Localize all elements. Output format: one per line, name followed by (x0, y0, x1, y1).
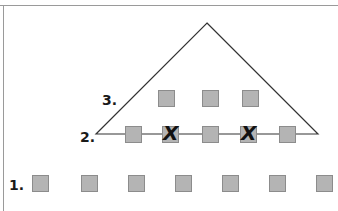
square (316, 175, 333, 192)
square (158, 90, 175, 107)
square (279, 126, 296, 143)
square (128, 175, 145, 192)
row-label-1: 1. (9, 178, 24, 192)
square (202, 90, 219, 107)
square (269, 175, 286, 192)
row-label-3: 3. (102, 93, 117, 107)
cross-out-icon: X (163, 123, 178, 143)
square (175, 175, 192, 192)
square (32, 175, 49, 192)
square (202, 126, 219, 143)
square (222, 175, 239, 192)
square (242, 90, 259, 107)
triangle-outline (96, 23, 318, 134)
cross-out-icon: X (241, 123, 256, 143)
square (125, 126, 142, 143)
row-label-2: 2. (80, 130, 95, 144)
square (81, 175, 98, 192)
